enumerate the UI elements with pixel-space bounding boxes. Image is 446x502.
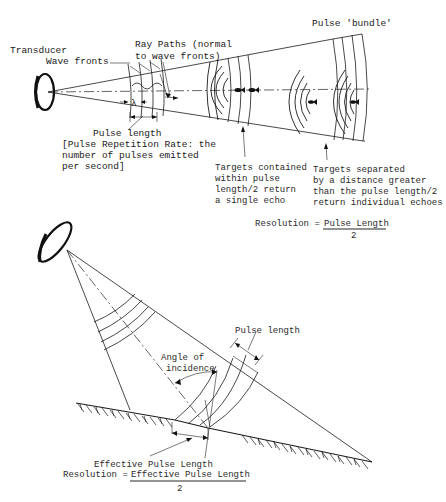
individual-echo-label-line3: than the pulse length/2 [313, 187, 437, 197]
ray-paths-label-line1: Ray Paths (normal [135, 39, 232, 50]
pulse-length-label: Pulse length [93, 128, 161, 139]
wave-fronts-label: Wave fronts [46, 56, 109, 67]
individual-echo-label-line2: by a distance greater [313, 176, 426, 186]
target-fish-icon [350, 99, 359, 105]
single-echo-label-line2: within pulse [215, 174, 280, 184]
seabed-line [76, 403, 372, 462]
pulse-length-marker-bottom [230, 332, 263, 365]
pulse-bundle-far [333, 35, 359, 141]
resolution-formula-top: Resolution = Pulse Length 2 [255, 219, 389, 241]
formula-numerator: Effective Pulse Length [131, 470, 250, 480]
prr-label-line1: [Pulse Repetition Rate: the [62, 139, 216, 150]
transducer-label: Transducer [10, 45, 67, 56]
sonar-resolution-diagram: λ [0, 0, 446, 502]
top-panel: λ [10, 18, 443, 241]
individual-echo-label-line4: return individual echoes [313, 198, 443, 208]
echo-individual-1 [289, 70, 317, 134]
prr-label-line2: number of pulses emitted [62, 150, 199, 161]
single-echo-label-line4: a single echo [215, 196, 285, 206]
beam-axis [48, 89, 370, 92]
single-echo-label-line3: length/2 return [215, 185, 296, 195]
angle-label-line2: incidence [166, 364, 215, 374]
effective-pulse-length-label: Effective Pulse Length [94, 460, 213, 470]
formula-lhs: Resolution = [255, 219, 320, 229]
formula-denominator: 2 [177, 484, 182, 494]
wavelength-marker: λ [120, 98, 147, 109]
target-fish-icon [308, 99, 317, 105]
single-echo-label-line1: Targets contained [215, 163, 307, 173]
wave-fronts [110, 59, 178, 118]
pulse-length-label-bottom: Pulse length [235, 326, 300, 336]
ray-paths-label-line2: to wave fronts) [135, 51, 221, 62]
wavelength-symbol: λ [131, 98, 137, 109]
target-fish-icon [235, 87, 246, 93]
bottom-panel: Pulse length Angle of incidence Effectiv… [33, 218, 372, 494]
effective-pulse-length-marker [150, 422, 208, 456]
prr-label-line3: per second] [62, 161, 125, 172]
resolution-formula-bottom: Resolution = Effective Pulse Length 2 [63, 470, 250, 494]
pulse-bundle-label: Pulse 'bundle' [312, 18, 392, 29]
target-fish-icon [249, 87, 260, 93]
individual-echo-label-line1: Targets separated [313, 165, 405, 175]
formula-denominator: 2 [351, 231, 356, 241]
angle-label-line1: Angle of [161, 353, 204, 363]
formula-numerator: Pulse Length [324, 219, 389, 229]
formula-lhs: Resolution = [63, 470, 128, 480]
beam-axis [67, 250, 208, 428]
